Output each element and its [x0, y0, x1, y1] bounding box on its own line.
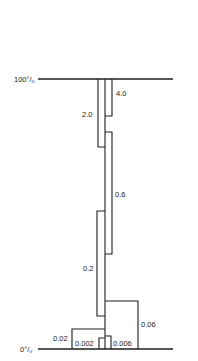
label-0-6: 0.6: [115, 190, 125, 199]
label-2-0: 2.0: [82, 110, 92, 119]
box-0-006: [105, 336, 111, 349]
label-0-02: 0.02: [53, 334, 68, 343]
step-diagram: 100°/₀ 0°/₀ 4.0 2.0 0.6 0.2 0.06 0.02 0.…: [0, 0, 198, 361]
bar-0-2: [97, 211, 105, 316]
label-0-percent: 0°/₀: [20, 345, 32, 354]
bar-0-6: [105, 132, 112, 254]
label-0-002: 0.002: [75, 339, 94, 348]
label-0-06: 0.06: [141, 320, 156, 329]
label-4-0: 4.0: [116, 89, 126, 98]
label-100-percent: 100°/₀: [14, 75, 35, 84]
box-0-002: [99, 338, 105, 349]
bar-4-0: [105, 79, 112, 116]
label-0-2: 0.2: [83, 264, 93, 273]
label-0-006: 0.006: [113, 339, 132, 348]
bar-2-0: [98, 79, 105, 147]
